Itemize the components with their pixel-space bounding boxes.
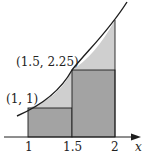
tick-label-1: 1: [25, 140, 33, 151]
rectangle-1: [28, 108, 72, 137]
tick-label-1-5: 1.5: [63, 140, 82, 151]
tick-label-2: 2: [111, 140, 119, 151]
rectangle-2: [72, 70, 115, 137]
riemann-sum-diagram: x 1 1.5 2 (1, 1) (1.5, 2.25): [0, 0, 146, 151]
diagram-canvas: x 1 1.5 2 (1, 1) (1.5, 2.25): [0, 0, 146, 151]
point-label-1-5-2-25: (1.5, 2.25): [16, 55, 79, 69]
x-axis-label: x: [135, 140, 142, 151]
point-label-1-1: (1, 1): [6, 92, 38, 106]
